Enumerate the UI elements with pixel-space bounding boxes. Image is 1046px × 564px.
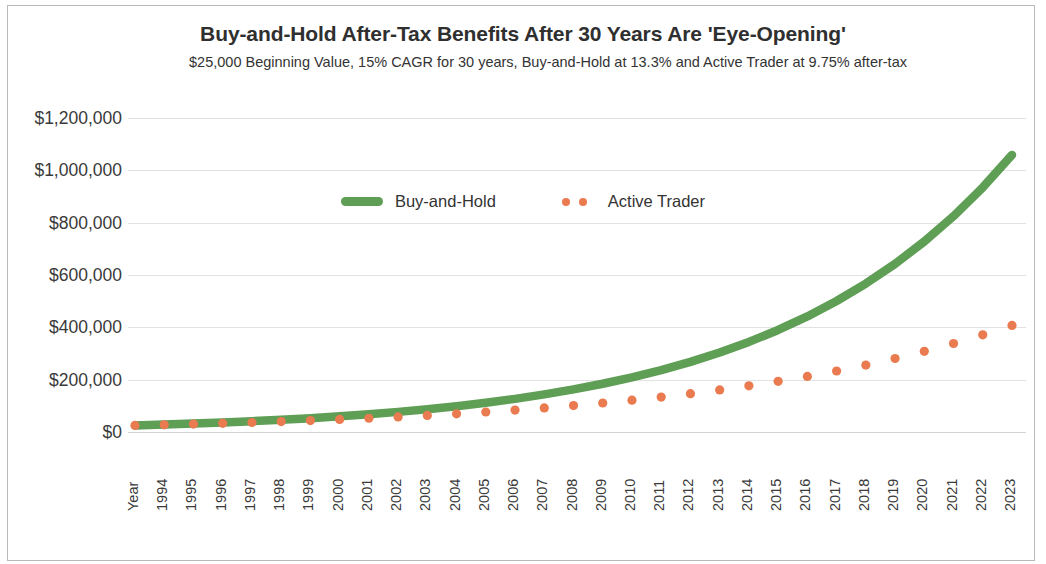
x-axis-tick-label: 2015 xyxy=(768,479,784,511)
data-point-marker xyxy=(978,330,987,339)
x-axis-tick: 2019 xyxy=(901,441,902,511)
x-axis-tick: 2003 xyxy=(433,441,434,511)
x-axis-tick: 2005 xyxy=(492,441,493,511)
x-axis-tick-label: 2007 xyxy=(534,479,550,511)
data-point-marker xyxy=(364,414,373,423)
data-point-marker xyxy=(657,392,666,401)
x-axis-tick: 2020 xyxy=(930,441,931,511)
x-axis-tick: 2015 xyxy=(784,441,785,511)
x-axis-tick-label: 1998 xyxy=(271,479,287,511)
x-axis-tick: 2010 xyxy=(638,441,639,511)
data-point-marker xyxy=(510,405,519,414)
data-point-marker xyxy=(130,421,139,430)
data-point-marker xyxy=(1007,321,1016,330)
x-axis-tick: 2011 xyxy=(667,441,668,511)
data-point-marker xyxy=(890,354,899,363)
data-point-marker xyxy=(920,347,929,356)
x-axis-tick: 2022 xyxy=(989,441,990,511)
x-axis-tick: 2014 xyxy=(755,441,756,511)
x-axis-tick: 2021 xyxy=(960,441,961,511)
data-point-marker xyxy=(803,372,812,381)
x-axis-tick-label: 2020 xyxy=(914,479,930,511)
x-axis-tick-label: 2013 xyxy=(710,479,726,511)
x-axis-tick: 2002 xyxy=(404,441,405,511)
x-axis-tick-label: 2003 xyxy=(417,479,433,511)
x-axis-tick: 1997 xyxy=(258,441,259,511)
x-axis-tick-label: 2012 xyxy=(680,479,696,511)
x-axis-tick: 1999 xyxy=(316,441,317,511)
x-axis-tick-label: 1996 xyxy=(213,479,229,511)
x-axis-tick-label: 2000 xyxy=(330,479,346,511)
x-axis-tick-label: 2014 xyxy=(739,479,755,511)
series-dots-active-trader xyxy=(130,321,1016,430)
x-axis-tick-label: 1995 xyxy=(183,479,199,511)
data-point-marker xyxy=(861,360,870,369)
legend-dot-icon xyxy=(562,198,570,206)
x-axis-tick-label: 2010 xyxy=(622,479,638,511)
x-axis-tick-label: 2005 xyxy=(476,479,492,511)
x-axis-tick-label: 2017 xyxy=(827,479,843,511)
x-axis-tick-label: 1994 xyxy=(154,479,170,511)
x-axis-tick: 1996 xyxy=(229,441,230,511)
data-point-marker xyxy=(949,339,958,348)
legend-item-active-trader[interactable]: Active Trader xyxy=(554,192,705,211)
x-axis-tick-label: 2016 xyxy=(797,479,813,511)
x-axis-tick-label: 1997 xyxy=(242,479,258,511)
data-point-marker xyxy=(481,407,490,416)
x-axis-tick-label: 2009 xyxy=(593,479,609,511)
x-axis-tick: 2009 xyxy=(609,441,610,511)
data-point-marker xyxy=(423,411,432,420)
x-axis-tick: 2012 xyxy=(696,441,697,511)
x-axis-tick-label: 2006 xyxy=(505,479,521,511)
data-point-marker xyxy=(627,396,636,405)
legend-dot-icon xyxy=(579,198,587,206)
legend-label-buy-and-hold: Buy-and-Hold xyxy=(395,192,496,211)
data-point-marker xyxy=(218,419,227,428)
data-point-marker xyxy=(598,398,607,407)
data-point-marker xyxy=(189,420,198,429)
x-axis-tick: 2023 xyxy=(1018,441,1019,511)
data-point-marker xyxy=(715,385,724,394)
x-axis-tick: 1994 xyxy=(170,441,171,511)
x-axis-tick: 2001 xyxy=(375,441,376,511)
x-axis-tick-label: 2001 xyxy=(359,479,375,511)
data-point-marker xyxy=(247,418,256,427)
x-axis-tick-label: 2011 xyxy=(651,480,667,511)
x-axis-tick-label: 2018 xyxy=(856,479,872,511)
legend-line-swatch-icon xyxy=(341,197,383,206)
legend-label-active-trader: Active Trader xyxy=(608,192,705,211)
data-point-marker xyxy=(744,381,753,390)
data-point-marker xyxy=(774,377,783,386)
data-point-marker xyxy=(569,401,578,410)
legend-dots-swatch-icon xyxy=(554,197,596,206)
x-axis-tick: 2006 xyxy=(521,441,522,511)
data-point-marker xyxy=(540,403,549,412)
x-axis-tick: 2013 xyxy=(726,441,727,511)
x-axis-tick-label: 1999 xyxy=(300,479,316,511)
x-axis-tick: 2000 xyxy=(346,441,347,511)
data-point-marker xyxy=(335,415,344,424)
legend-item-buy-and-hold[interactable]: Buy-and-Hold xyxy=(341,192,496,211)
data-point-marker xyxy=(306,416,315,425)
x-axis-tick-label: 2021 xyxy=(944,479,960,511)
x-axis-tick: 1995 xyxy=(199,441,200,511)
x-axis-tick: Year xyxy=(141,441,142,511)
x-axis-tick: 2018 xyxy=(872,441,873,511)
x-axis-tick: 2007 xyxy=(550,441,551,511)
data-point-marker xyxy=(686,389,695,398)
x-axis-tick-label: Year xyxy=(125,482,141,511)
data-point-marker xyxy=(832,366,841,375)
x-axis-tick-label: 2004 xyxy=(447,479,463,511)
x-axis-tick-label: 2002 xyxy=(388,479,404,511)
x-axis-tick: 1998 xyxy=(287,441,288,511)
x-axis-tick-label: 2019 xyxy=(885,479,901,511)
x-axis-tick-label: 2023 xyxy=(1002,479,1018,511)
x-axis-tick-label: 2022 xyxy=(973,479,989,511)
data-point-marker xyxy=(452,409,461,418)
data-point-marker xyxy=(160,420,169,429)
x-axis-tick: 2017 xyxy=(843,441,844,511)
x-axis-tick: 2008 xyxy=(580,441,581,511)
data-point-marker xyxy=(277,417,286,426)
x-axis-tick: 2016 xyxy=(813,441,814,511)
x-axis-tick: 2004 xyxy=(463,441,464,511)
